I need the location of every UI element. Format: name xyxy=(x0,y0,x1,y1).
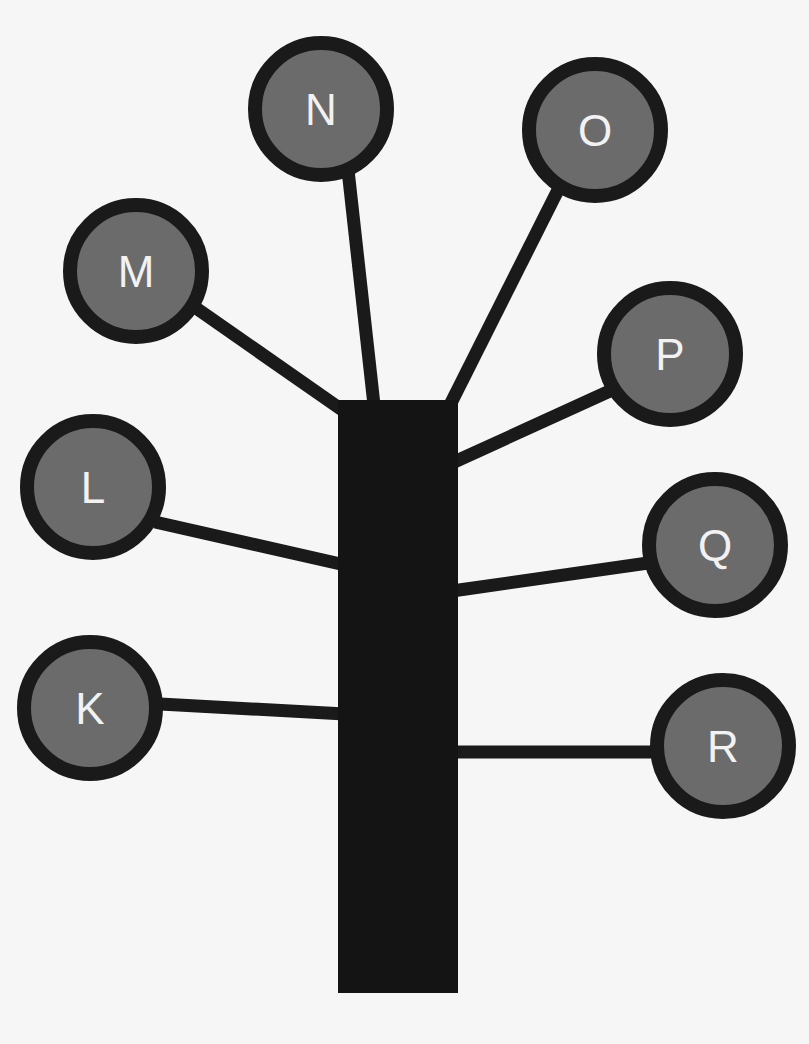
node-label: K xyxy=(75,684,104,733)
node-label: O xyxy=(578,106,612,155)
node-label: P xyxy=(655,330,684,379)
tree-trunk xyxy=(338,400,458,993)
node-label: L xyxy=(81,463,105,512)
node-r: R xyxy=(657,680,789,812)
node-q: Q xyxy=(649,479,781,611)
node-label: Q xyxy=(698,521,732,570)
tree-diagram: KLMNOPQR xyxy=(0,0,809,1044)
node-m: M xyxy=(70,205,202,337)
node-p: P xyxy=(604,288,736,420)
node-k: K xyxy=(24,642,156,774)
node-n: N xyxy=(255,43,387,175)
node-label: N xyxy=(305,85,337,134)
node-label: M xyxy=(118,247,155,296)
node-o: O xyxy=(529,64,661,196)
node-label: R xyxy=(707,722,739,771)
node-l: L xyxy=(27,421,159,553)
